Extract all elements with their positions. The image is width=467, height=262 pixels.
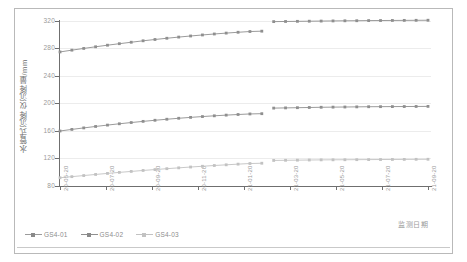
series-gs4-01 (59, 19, 430, 54)
series-gs4-02 (59, 105, 430, 132)
legend-item-gs4-03[interactable]: GS4-03 (136, 231, 179, 238)
series-gs4-03 (59, 158, 430, 179)
chart-figure: 水管式沉降仪沉降量/mm 320 280 240 200 160 120 80 (0, 0, 467, 262)
chart-legend: GS4-01 GS4-02 GS4-03 (25, 231, 179, 238)
legend-swatch-icon (81, 234, 98, 235)
legend-swatch-icon (136, 234, 153, 235)
series-plot-area (0, 0, 467, 262)
legend-label: GS4-02 (100, 231, 124, 238)
legend-label: GS4-01 (44, 231, 68, 238)
legend-item-gs4-01[interactable]: GS4-01 (25, 231, 68, 238)
legend-label: GS4-03 (155, 231, 179, 238)
legend-swatch-icon (25, 234, 42, 235)
legend-divider (17, 247, 450, 248)
legend-item-gs4-02[interactable]: GS4-02 (81, 231, 124, 238)
